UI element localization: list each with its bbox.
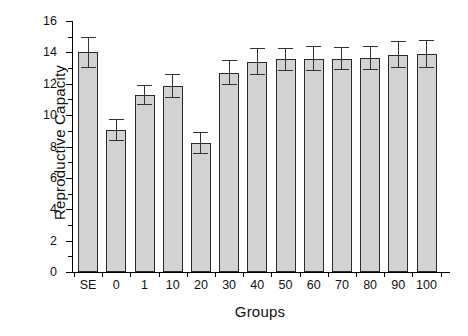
error-bar-cap-top	[419, 40, 434, 41]
x-tick	[271, 272, 272, 277]
x-axis-line	[72, 272, 450, 273]
y-tick-label: 4	[50, 203, 57, 216]
y-tick-minor	[68, 225, 72, 226]
y-tick-minor	[68, 256, 72, 257]
bar	[78, 52, 98, 272]
y-tick-minor	[68, 37, 72, 38]
x-tick	[74, 272, 75, 277]
y-tick-major: 4	[66, 209, 72, 210]
error-bar-cap-top	[137, 85, 152, 86]
bar	[163, 86, 183, 272]
y-tick-label: 0	[50, 266, 57, 279]
error-bar-cap-top	[193, 132, 208, 133]
x-tick	[441, 272, 442, 277]
y-tick-label: 16	[43, 15, 57, 28]
error-bar-cap-top	[306, 46, 321, 47]
x-tick	[412, 272, 413, 277]
x-tick-label: 30	[222, 279, 236, 292]
x-tick-label: 60	[307, 279, 321, 292]
x-tick-label: 1	[141, 279, 148, 292]
y-tick-label: 6	[50, 172, 57, 185]
error-bar-cap-top	[278, 48, 293, 49]
bar	[388, 55, 408, 272]
x-tick-label: 10	[166, 279, 180, 292]
x-tick-label: 50	[279, 279, 293, 292]
y-tick-minor	[68, 131, 72, 132]
y-tick-label: 14	[43, 46, 57, 59]
error-bar-cap-top	[165, 74, 180, 75]
y-tick-major: 6	[66, 178, 72, 179]
y-tick-minor	[68, 99, 72, 100]
x-axis-title: Groups	[70, 303, 450, 320]
error-bar-cap-top	[81, 37, 96, 38]
x-tick	[384, 272, 385, 277]
x-tick	[102, 272, 103, 277]
bar	[417, 54, 437, 272]
y-tick-label: 12	[43, 78, 57, 91]
error-bar-cap-top	[363, 46, 378, 47]
y-tick-minor	[68, 162, 72, 163]
bar	[332, 59, 352, 272]
x-tick	[215, 272, 216, 277]
bar	[276, 59, 296, 272]
y-tick-major: 12	[66, 84, 72, 85]
bar	[135, 95, 155, 272]
error-bar-cap-top	[109, 119, 124, 120]
x-tick	[130, 272, 131, 277]
y-tick-label: 10	[43, 109, 57, 122]
y-tick-major: 0	[66, 272, 72, 273]
bar	[219, 73, 239, 272]
y-axis-line	[72, 21, 73, 273]
plot-area: 0246810121416 SE01102030405060708090100	[72, 21, 450, 272]
x-tick	[159, 272, 160, 277]
chart-figure: Reproductive Capacity Groups 02468101214…	[0, 0, 468, 336]
x-tick	[187, 272, 188, 277]
bar	[360, 58, 380, 272]
y-tick-minor	[68, 68, 72, 69]
y-tick-label: 2	[50, 234, 57, 247]
x-tick-label: SE	[80, 279, 97, 292]
x-tick-label: 100	[416, 279, 437, 292]
x-tick-label: 0	[113, 279, 120, 292]
error-bar-cap-top	[391, 41, 406, 42]
bar	[106, 130, 126, 272]
x-tick-label: 90	[391, 279, 405, 292]
x-tick-label: 70	[335, 279, 349, 292]
bar	[191, 143, 211, 272]
x-tick-label: 40	[250, 279, 264, 292]
x-tick	[328, 272, 329, 277]
bar	[304, 59, 324, 272]
error-bar-cap-top	[222, 60, 237, 61]
bar	[247, 62, 267, 272]
x-tick	[356, 272, 357, 277]
error-bar-cap-top	[334, 47, 349, 48]
y-tick-minor	[68, 194, 72, 195]
error-bar-cap-top	[250, 48, 265, 49]
y-tick-major: 14	[66, 52, 72, 53]
y-tick-major: 8	[66, 147, 72, 148]
x-tick-label: 80	[363, 279, 377, 292]
x-tick	[300, 272, 301, 277]
y-tick-major: 10	[66, 115, 72, 116]
x-tick-label: 20	[194, 279, 208, 292]
y-tick-label: 8	[50, 140, 57, 153]
y-tick-major: 2	[66, 241, 72, 242]
x-tick	[243, 272, 244, 277]
y-tick-major: 16	[66, 21, 72, 22]
